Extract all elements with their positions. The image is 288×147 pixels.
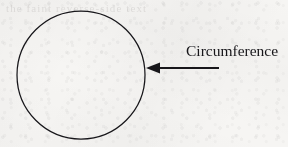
circumference-label: Circumference: [186, 43, 278, 59]
circle: [17, 11, 145, 139]
leader-arrow: [146, 63, 219, 74]
arrow-head-icon: [146, 63, 160, 74]
circle-circumference-figure: the faint reverse-side text Circumferenc…: [0, 0, 288, 147]
diagram-canvas: [0, 0, 288, 147]
